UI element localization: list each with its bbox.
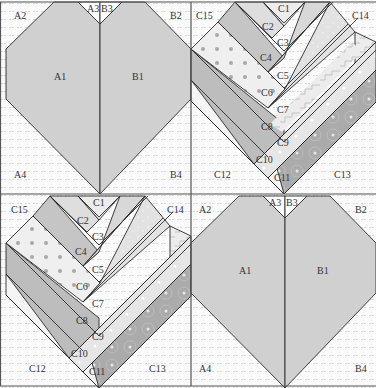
label-c15: C15 xyxy=(11,204,28,215)
label-c4: C4 xyxy=(75,246,87,257)
label-c5: C5 xyxy=(277,70,289,81)
label-a4: A4 xyxy=(199,363,211,374)
label-c9: C9 xyxy=(277,137,289,148)
label-c11: C11 xyxy=(274,172,290,183)
label-b4: B4 xyxy=(355,363,367,374)
label-c6: C6 xyxy=(261,87,273,98)
label-c1: C1 xyxy=(93,197,105,208)
label-c13: C13 xyxy=(149,363,166,374)
label-c14: C14 xyxy=(352,10,369,21)
label-b1: B1 xyxy=(132,71,144,82)
label-a1: A1 xyxy=(239,265,251,276)
label-c3: C3 xyxy=(277,37,289,48)
label-c10: C10 xyxy=(71,348,88,359)
label-c13: C13 xyxy=(334,169,351,180)
label-a4: A4 xyxy=(14,169,26,180)
label-a3: A3 xyxy=(87,3,99,14)
label-b2: B2 xyxy=(355,204,367,215)
label-a1: A1 xyxy=(54,71,66,82)
label-c1: C1 xyxy=(278,3,290,14)
label-c4: C4 xyxy=(260,52,272,63)
label-c8: C8 xyxy=(76,315,88,326)
label-c12: C12 xyxy=(29,363,46,374)
label-c3: C3 xyxy=(92,231,104,242)
quilt-diagram: A1 B1 A2 B2 A3 B3 A4 B4 xyxy=(0,0,376,388)
label-c2: C2 xyxy=(77,215,89,226)
label-c6: C6 xyxy=(76,281,88,292)
label-b2: B2 xyxy=(170,10,182,21)
label-b3: B3 xyxy=(286,197,298,208)
label-c15: C15 xyxy=(196,10,213,21)
label-c8: C8 xyxy=(261,121,273,132)
label-a3: A3 xyxy=(269,197,281,208)
label-c14: C14 xyxy=(167,204,184,215)
label-c12: C12 xyxy=(214,169,231,180)
label-a2: A2 xyxy=(14,10,26,21)
label-b1: B1 xyxy=(317,265,329,276)
label-a2: A2 xyxy=(199,204,211,215)
label-c10: C10 xyxy=(256,154,273,165)
label-b3: B3 xyxy=(101,3,113,14)
label-c5: C5 xyxy=(92,264,104,275)
label-b4: B4 xyxy=(170,169,182,180)
label-c9: C9 xyxy=(92,331,104,342)
label-c2: C2 xyxy=(262,21,274,32)
label-c11: C11 xyxy=(89,366,105,377)
label-c7: C7 xyxy=(92,298,104,309)
label-c7: C7 xyxy=(277,104,289,115)
